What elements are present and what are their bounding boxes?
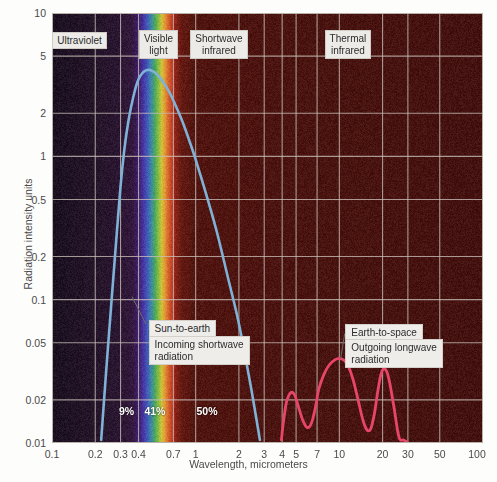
y-tick-0-01: 0.01 [2, 437, 46, 449]
y-axis-title: Radiation intensity units [22, 154, 34, 314]
radiation-spectrum-figure: 0.10.20.30.40.712345710203050100 105210.… [0, 0, 497, 482]
band-label-thermal-infrared: Thermal infrared [325, 30, 372, 59]
data-curves [52, 13, 483, 443]
y-tick-2: 2 [2, 107, 46, 119]
y-tick-0-02: 0.02 [2, 394, 46, 406]
y-tick-10: 10 [2, 7, 46, 19]
band-label-shortwave-infrared: Shortwave infrared [190, 30, 247, 59]
y-tick-0-05: 0.05 [2, 337, 46, 349]
x-axis-title: Wavelength, micrometers [0, 458, 497, 470]
pct-ultraviolet: 9% [119, 405, 134, 417]
annotation-outgoing-longwave-radiation: Outgoing longwave radiation [345, 339, 443, 368]
band-label-ultraviolet: Ultraviolet [52, 32, 106, 50]
annotation-incoming-shortwave-radiation: Incoming shortwave radiation [149, 336, 250, 365]
annotation-sun-to-earth: Sun-to-earth [149, 320, 217, 338]
pct-infrared: 50% [196, 405, 217, 417]
y-tick-5: 5 [2, 50, 46, 62]
band-label-visible-light: Visible light [139, 30, 178, 59]
pct-visible: 41% [144, 405, 165, 417]
plot-area [52, 13, 483, 443]
